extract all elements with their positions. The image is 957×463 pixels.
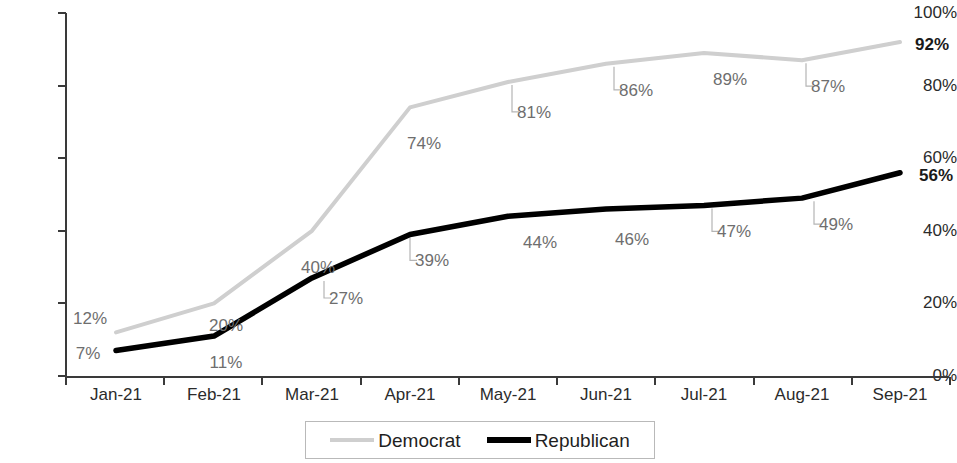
data-label-democrat-apr-21: 74% [407,135,441,152]
series-lines [116,42,900,351]
data-label-republican-mar-21: 27% [329,289,363,306]
chart-legend: Democrat Republican [305,421,655,459]
data-label-democrat-mar-21: 40% [301,258,335,275]
data-label-republican-jun-21: 46% [615,231,649,248]
data-label-democrat-jan-21: 12% [73,310,107,327]
data-label-republican-sep-21: 56% [919,166,953,183]
data-label-democrat-jul-21: 89% [713,70,747,87]
series-line-democrat [116,42,900,332]
data-label-democrat-sep-21: 92% [915,36,949,53]
data-label-republican-jul-21: 47% [717,223,751,240]
legend-label-democrat: Democrat [378,431,460,450]
data-label-republican-feb-21: 11% [210,354,243,371]
legend-item-democrat[interactable]: Democrat [330,431,460,450]
plot-area [0,0,957,463]
data-label-republican-may-21: 44% [523,234,557,251]
data-label-democrat-aug-21: 87% [811,78,845,95]
data-label-democrat-jun-21: 86% [619,81,653,98]
data-label-republican-apr-21: 39% [415,252,449,269]
data-label-republican-aug-21: 49% [819,216,853,233]
line-chart: 0%20%40%60%80%100% Jan-21Feb-21Mar-21Apr… [0,0,957,463]
data-label-democrat-feb-21: 20% [209,317,243,334]
data-label-leader-lines [324,63,821,298]
legend-line-swatch-republican [487,437,531,443]
legend-item-republican[interactable]: Republican [487,431,630,450]
data-label-republican-jan-21: 7% [76,344,101,361]
data-label-democrat-may-21: 81% [517,103,551,120]
legend-label-republican: Republican [535,431,630,450]
legend-line-swatch-democrat [330,438,374,442]
